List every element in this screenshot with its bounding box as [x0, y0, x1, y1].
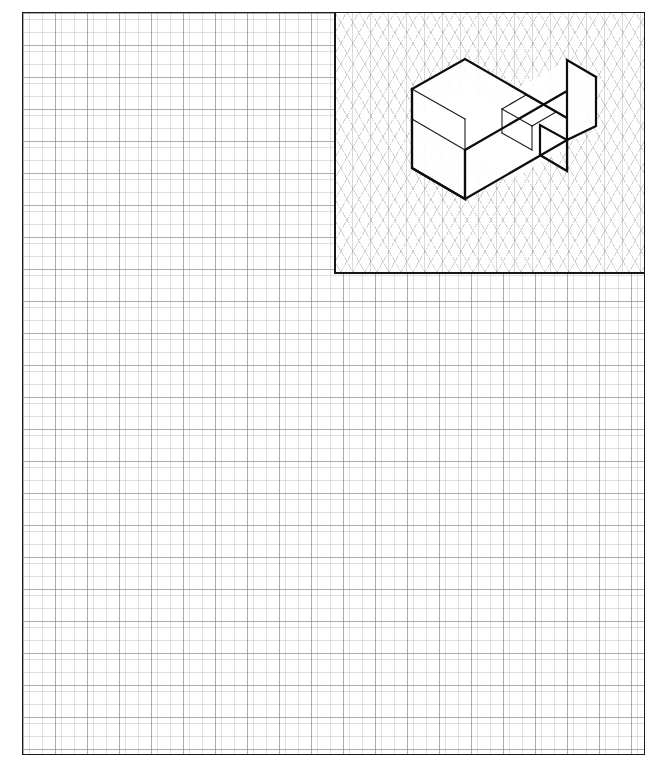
- worksheet-page: [0, 0, 668, 779]
- isometric-reference-panel[interactable]: [334, 13, 645, 274]
- main-drawing-sheet[interactable]: [22, 12, 645, 755]
- isometric-dot-grid: [334, 13, 645, 274]
